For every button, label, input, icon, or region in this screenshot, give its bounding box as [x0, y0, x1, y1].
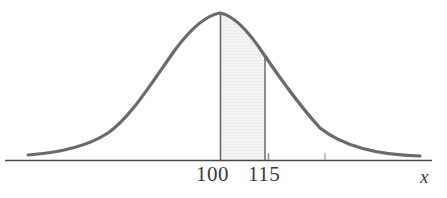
- x-tick-label-100: 100: [196, 164, 229, 185]
- x-tick-label-115: 115: [248, 164, 280, 185]
- shaded-area-region: [220, 10, 265, 160]
- x-axis-label: x: [420, 167, 428, 186]
- normal-distribution-figure: 100 115 x: [0, 0, 447, 198]
- shaded-area-fill: [220, 10, 265, 160]
